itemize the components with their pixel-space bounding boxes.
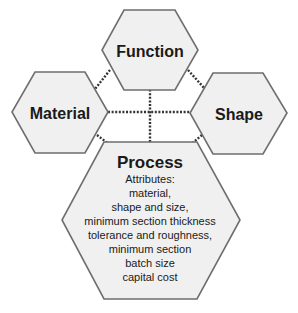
process-attribute: shape and size, [111,201,188,213]
process-label: Process [117,153,183,172]
process-attribute: material, [129,187,171,199]
node-function: Function [102,10,198,90]
node-process: Process Attributes: material, shape and … [62,142,240,299]
shape-label: Shape [215,106,263,123]
process-attributes-heading: Attributes: [125,173,175,185]
process-attribute: capital cost [122,271,177,283]
function-label: Function [116,43,184,60]
process-attribute: tolerance and roughness, [88,229,212,241]
process-attribute: batch size [125,257,175,269]
process-attribute: minimum section [109,243,192,255]
node-shape: Shape [190,73,287,154]
material-label: Material [30,105,90,122]
design-interaction-diagram: Function Material Shape Process Attribut… [0,0,298,313]
node-material: Material [12,72,108,153]
connector-function-shape [188,70,205,89]
process-attribute: minimum section thickness [84,215,216,227]
connector-function-material [95,70,110,89]
